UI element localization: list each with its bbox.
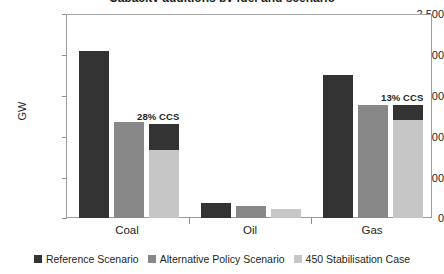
- bar-gas-450[interactable]: [393, 105, 423, 218]
- chart-legend: Reference Scenario Alternative Policy Sc…: [0, 253, 444, 265]
- annotation-gas-ccs: 13% CCS: [381, 92, 423, 103]
- y-axis-title: GW: [16, 81, 28, 141]
- legend-item-450[interactable]: 450 Stabilisation Case: [294, 253, 410, 265]
- annotation-coal-ccs: 28% CCS: [137, 111, 179, 122]
- y-tick-mark: [62, 218, 67, 219]
- legend-label: 450 Stabilisation Case: [306, 253, 410, 265]
- x-label-gas: Gas: [342, 224, 402, 236]
- legend-swatch-icon: [34, 255, 42, 263]
- chart-title: Capacity additions by fuel and scenario: [0, 0, 444, 2]
- bar-gas-alternative[interactable]: [358, 105, 388, 218]
- legend-label: Reference Scenario: [46, 253, 139, 265]
- bar-coal-alternative[interactable]: [114, 122, 144, 218]
- bar-segment-base: [393, 105, 423, 218]
- bar-oil-450[interactable]: [271, 209, 301, 218]
- x-label-oil: Oil: [220, 224, 280, 236]
- legend-swatch-icon: [294, 255, 302, 263]
- chart-container: Capacity additions by fuel and scenario …: [0, 0, 444, 274]
- plot-area: 28% CCS 13% CCS: [67, 15, 431, 218]
- legend-item-alternative[interactable]: Alternative Policy Scenario: [148, 253, 285, 265]
- legend-item-reference[interactable]: Reference Scenario: [34, 253, 139, 265]
- bar-coal-reference[interactable]: [79, 51, 109, 218]
- x-tick-mark: [189, 218, 190, 224]
- bar-segment-ccs: [393, 105, 423, 120]
- bar-coal-450[interactable]: [149, 124, 179, 218]
- bar-group-coal: 28% CCS: [75, 15, 179, 218]
- bar-segment-ccs: [149, 124, 179, 150]
- x-tick-mark: [311, 218, 312, 224]
- bar-group-oil: [197, 15, 301, 218]
- bar-group-gas: 13% CCS: [319, 15, 423, 218]
- legend-swatch-icon: [148, 255, 156, 263]
- bar-oil-alternative[interactable]: [236, 206, 266, 218]
- bar-oil-reference[interactable]: [201, 203, 231, 218]
- bar-gas-reference[interactable]: [323, 75, 353, 218]
- legend-label: Alternative Policy Scenario: [160, 253, 285, 265]
- x-label-coal: Coal: [97, 224, 157, 236]
